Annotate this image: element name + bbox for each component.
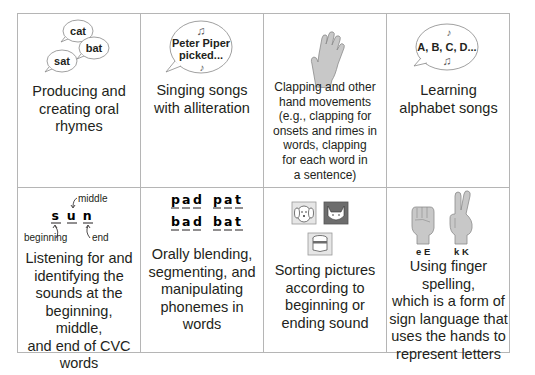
svg-text:p: p (213, 192, 223, 207)
svg-text:♪: ♪ (447, 27, 452, 38)
svg-text:cat: cat (70, 25, 86, 37)
cell-cvc-sounds: middle s u n beginning end Listening for… (18, 188, 140, 354)
svg-text:p: p (171, 192, 181, 207)
cell-oral-rhymes: cat bat sat Producing and creating oral … (18, 14, 140, 187)
svg-text:a: a (224, 214, 234, 229)
svg-text:d: d (193, 192, 203, 207)
hand-sign-k-icon (450, 191, 472, 244)
cell-sorting-pictures: Sorting pictures according to beginning … (264, 188, 386, 354)
svg-text:A, B, C, D...: A, B, C, D... (417, 41, 476, 53)
caption: Learning alphabet songs (391, 82, 506, 117)
svg-text:b: b (171, 214, 181, 229)
svg-text:n: n (83, 208, 93, 223)
cat-picture-icon (324, 202, 348, 224)
svg-text:a: a (182, 214, 192, 229)
dog-picture-icon (292, 202, 316, 224)
svg-text:t: t (235, 192, 242, 207)
svg-text:Peter Piper: Peter Piper (172, 37, 231, 49)
svg-text:end: end (92, 232, 109, 243)
caption: Clapping and other hand movements (e.g.,… (268, 80, 382, 182)
svg-text:♫: ♫ (443, 54, 452, 68)
svg-text:beginning: beginning (24, 232, 67, 243)
hand-sign-e-icon (412, 207, 434, 244)
hand-label-e: e E (416, 246, 430, 257)
cell-alliteration-songs: ♫ Peter Piper picked... ♪ Singing songs … (141, 14, 263, 187)
cell-finger-spelling: e E k K Using finger spelling, which is … (387, 188, 510, 354)
svg-text:u: u (67, 208, 77, 223)
finger-spelling-hands (387, 188, 510, 248)
svg-text:a: a (224, 192, 234, 207)
caption: Using finger spelling, which is a form o… (387, 258, 510, 363)
svg-text:picked...: picked... (179, 49, 223, 61)
caption: Producing and creating oral rhymes (22, 83, 136, 136)
caption: Orally blending, segmenting, and manipul… (145, 246, 259, 334)
cell-phonemes: p a d p a t b a d b a t Orally blending,… (141, 188, 263, 354)
svg-text:b: b (213, 214, 223, 229)
svg-text:sat: sat (54, 55, 70, 67)
hand-sign-labels: e E k K (387, 246, 510, 258)
hand-label-k: k K (454, 246, 469, 257)
cell-alphabet-songs: ♪ A, B, C, D... ♫ Learning alphabet song… (387, 14, 510, 187)
svg-text:♫: ♫ (197, 24, 206, 38)
speech-bubbles-icon: cat bat sat (18, 14, 140, 94)
cell-clapping: Clapping and other hand movements (e.g.,… (264, 14, 386, 187)
phoneme-words-diagram: p a d p a t b a d b a t (141, 188, 263, 248)
drum-picture-icon (308, 233, 332, 255)
caption: Sorting pictures according to beginning … (268, 262, 382, 332)
activity-grid: cat bat sat Producing and creating oral … (17, 13, 510, 353)
svg-text:♪: ♪ (200, 62, 205, 73)
svg-text:middle: middle (78, 193, 108, 204)
caption: Singing songs with alliteration (145, 82, 259, 117)
svg-text:a: a (182, 192, 192, 207)
caption: Listening for and identifying the sounds… (22, 250, 136, 373)
svg-text:s: s (52, 208, 61, 223)
svg-text:d: d (193, 214, 203, 229)
svg-text:t: t (235, 214, 242, 229)
picture-cards (264, 188, 386, 258)
svg-text:bat: bat (86, 42, 103, 54)
cvc-word-diagram: middle s u n beginning end (18, 188, 140, 248)
